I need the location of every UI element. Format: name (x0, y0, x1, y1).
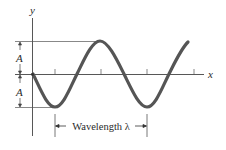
wave-diagram: y x A A Wavelength λ (0, 0, 226, 150)
amplitude-upper-label: A (15, 52, 23, 64)
x-axis-label: x (207, 68, 213, 80)
wavelength-label: Wavelength λ (72, 121, 131, 132)
wavelength-arrow-right (135, 125, 147, 128)
wavelength-arrow-left (56, 125, 67, 128)
amplitude-lower-label: A (15, 86, 23, 98)
y-axis-label: y (29, 4, 35, 16)
origin-dot (31, 73, 34, 76)
sine-wave (33, 41, 188, 107)
